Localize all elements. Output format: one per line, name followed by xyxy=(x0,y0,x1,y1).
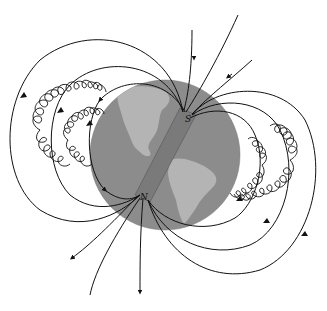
north-pole-label: N xyxy=(139,192,149,202)
south-pole-label: S xyxy=(185,114,191,124)
magnetosphere-diagram: S N xyxy=(0,0,327,311)
